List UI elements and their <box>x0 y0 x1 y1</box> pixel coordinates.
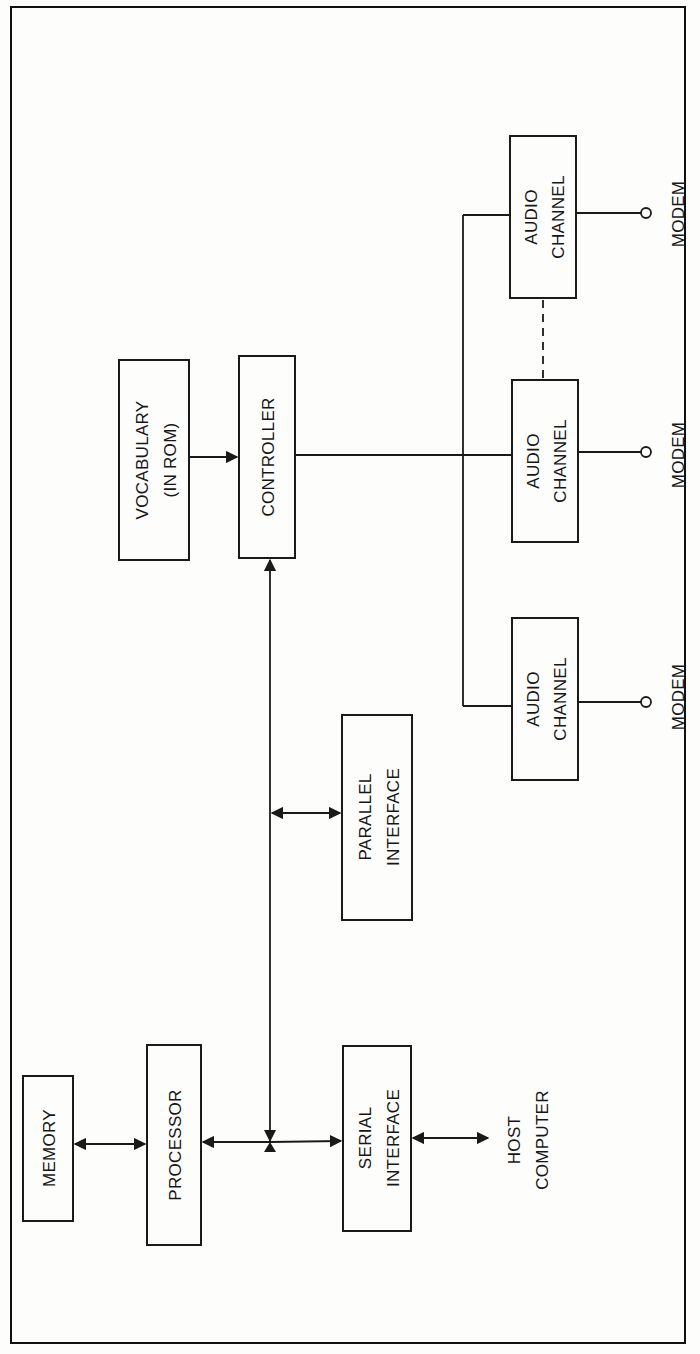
audio-channel-1-line1: AUDIO <box>522 189 541 244</box>
modem-label-2: MODEM <box>669 422 688 489</box>
controller-block: CONTROLLER <box>239 356 295 558</box>
audio-channel-block-2: AUDIO CHANNEL <box>512 380 578 542</box>
memory-block: MEMORY <box>23 1076 73 1221</box>
controller-label: CONTROLLER <box>259 397 278 516</box>
audio-channel-block-1: AUDIO CHANNEL <box>510 136 576 298</box>
audio-channel-3-line1: AUDIO <box>524 671 543 726</box>
modem-terminal-icon-3 <box>641 697 651 707</box>
parallel-interface-block: PARALLEL INTERFACE <box>342 715 412 920</box>
modem-label-1: MODEM <box>669 181 688 248</box>
audio-channel-2-line1: AUDIO <box>524 433 543 488</box>
bus-serial-link <box>270 1141 341 1142</box>
block-diagram: MEMORY PROCESSOR SERIAL INTERFACE HOST C… <box>0 0 700 1354</box>
processor-label: PROCESSOR <box>166 1089 185 1200</box>
modem-terminal-icon-1 <box>641 208 651 218</box>
parallel-interface-label-line1: PARALLEL <box>356 773 375 860</box>
vocabulary-rom-block: VOCABULARY (IN ROM) <box>119 360 189 560</box>
modem-label-3: MODEM <box>669 664 688 731</box>
host-computer-terminal: HOST COMPUTER <box>505 1090 552 1190</box>
host-computer-label-line1: HOST <box>505 1116 524 1164</box>
audio-channel-3-line2: CHANNEL <box>551 657 570 740</box>
serial-interface-block: SERIAL INTERFACE <box>343 1046 411 1231</box>
audio-channel-1-line2: CHANNEL <box>549 175 568 258</box>
host-computer-label-line2: COMPUTER <box>533 1090 552 1190</box>
processor-block: PROCESSOR <box>147 1045 201 1245</box>
vocabulary-label-line1: VOCABULARY <box>133 401 152 520</box>
diagram-canvas: MEMORY PROCESSOR SERIAL INTERFACE HOST C… <box>0 0 700 1354</box>
vocabulary-label-line2: (IN ROM) <box>161 422 180 497</box>
serial-interface-label-line1: SERIAL <box>356 1107 375 1169</box>
parallel-interface-label-line2: INTERFACE <box>384 768 403 866</box>
audio-channel-2-line2: CHANNEL <box>551 419 570 502</box>
modem-terminal-icon-2 <box>641 447 651 457</box>
serial-interface-label-line2: INTERFACE <box>384 1089 403 1187</box>
memory-label: MEMORY <box>40 1109 59 1187</box>
audio-channel-block-3: AUDIO CHANNEL <box>512 618 578 780</box>
